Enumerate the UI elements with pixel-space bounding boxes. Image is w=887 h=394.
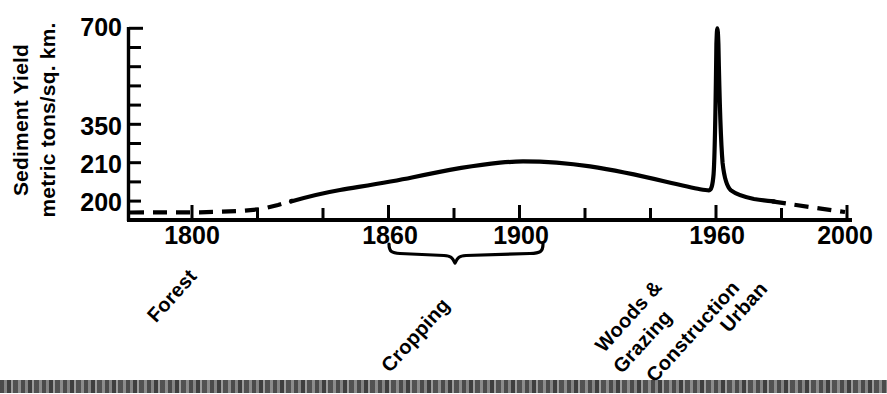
x-tick-label-1960: 1960: [689, 221, 745, 249]
era-label-forest: Forest: [143, 265, 201, 327]
x-tick-label-2000: 2000: [817, 221, 873, 249]
y-axis-labels: 700 350 210 200: [80, 13, 122, 216]
series-line-solid: [291, 28, 774, 201]
y-tick-label-700: 700: [80, 13, 122, 41]
sediment-yield-chart: Sediment Yield metric tons/sq. km. 700 3…: [0, 0, 887, 394]
era-label-cropping: Cropping: [377, 294, 454, 377]
era-labels: Forest Cropping Woods & Grazing Construc…: [143, 265, 772, 387]
x-axis-ticks: [192, 205, 847, 218]
y-axis-title-line1: Sediment Yield: [9, 44, 32, 196]
y-axis-title: Sediment Yield metric tons/sq. km.: [9, 22, 59, 217]
y-tick-label-350: 350: [80, 112, 122, 140]
y-tick-label-200: 200: [80, 188, 122, 216]
y-tick-label-210: 210: [80, 150, 122, 178]
figure-sediment-yield: Sediment Yield metric tons/sq. km. 700 3…: [0, 0, 887, 394]
x-tick-label-1900: 1900: [493, 221, 549, 249]
x-axis-labels: 1800 1860 1900 1960 2000: [164, 221, 873, 249]
y-axis-title-line2: metric tons/sq. km.: [36, 22, 59, 217]
caption-text-row: [0, 380, 887, 393]
y-axis-ticks: [129, 28, 143, 219]
x-tick-label-1800: 1800: [164, 221, 220, 249]
series-line-dashed-early: [130, 201, 293, 213]
caption-strip: [0, 380, 887, 394]
